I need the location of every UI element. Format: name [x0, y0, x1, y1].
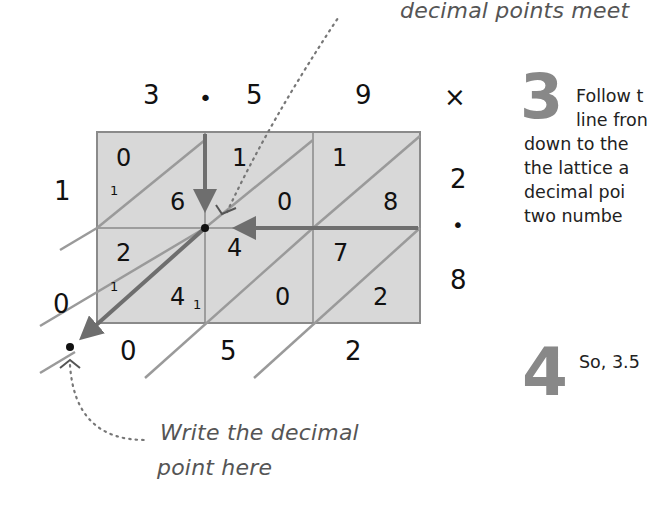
multiplicand-digit-1: 3 — [143, 82, 160, 108]
multiplier-decimal-point: • — [452, 215, 464, 235]
cell-r2c1-units: 4 — [170, 285, 185, 309]
cell-r1c1-tens: 0 — [116, 146, 131, 170]
step-3-line-1: Follow t — [576, 84, 643, 108]
step-3-line-3: down to the — [524, 132, 629, 156]
cell-r2c2-units: 0 — [275, 285, 290, 309]
carry-r2: 1 — [110, 280, 118, 293]
cell-r1c3-tens: 1 — [332, 146, 347, 170]
bottom-result-2: 5 — [220, 338, 237, 364]
step-3-line-6: two numbe — [524, 204, 623, 228]
cell-r2c3-units: 2 — [373, 285, 388, 309]
cell-r1c2-units: 0 — [277, 190, 292, 214]
left-result-1: 1 — [54, 178, 71, 204]
bottom-result-1: 0 — [120, 338, 137, 364]
multiplicand-digit-2: 5 — [246, 82, 263, 108]
step-4-line-1: So, 3.5 — [579, 350, 640, 374]
multiplicand-digit-3: 9 — [355, 82, 372, 108]
multiplier-digit-1: 2 — [450, 166, 467, 192]
cell-r2c1-tens: 2 — [116, 241, 131, 265]
note-decimal-points-meet: decimal points meet — [400, 0, 629, 23]
step-4-number: 4 — [522, 340, 568, 406]
left-result-2: 0 — [53, 291, 70, 317]
step-3-line-5: decimal poi — [524, 180, 625, 204]
times-sign: × — [444, 84, 466, 110]
cell-r2c2-tens: 4 — [227, 236, 242, 260]
step-3-line-4: the lattice a — [524, 156, 629, 180]
step-3-number: 3 — [520, 66, 563, 128]
multiplicand-decimal-point: • — [199, 88, 212, 110]
step-3-line-2: line fron — [576, 108, 648, 132]
cell-r2c3-tens: 7 — [333, 241, 348, 265]
carry-r1: 1 — [110, 184, 118, 197]
cell-r1c2-tens: 1 — [232, 146, 247, 170]
note-write-decimal-line2: point here — [157, 455, 272, 480]
note-write-decimal-line1: Write the decimal — [160, 420, 359, 445]
cell-r1c3-units: 8 — [383, 190, 398, 214]
carry-r2c1-sub: 1 — [193, 298, 201, 311]
multiplier-digit-2: 8 — [450, 267, 467, 293]
cell-r1c1-units: 6 — [170, 190, 185, 214]
bottom-result-3: 2 — [345, 338, 362, 364]
